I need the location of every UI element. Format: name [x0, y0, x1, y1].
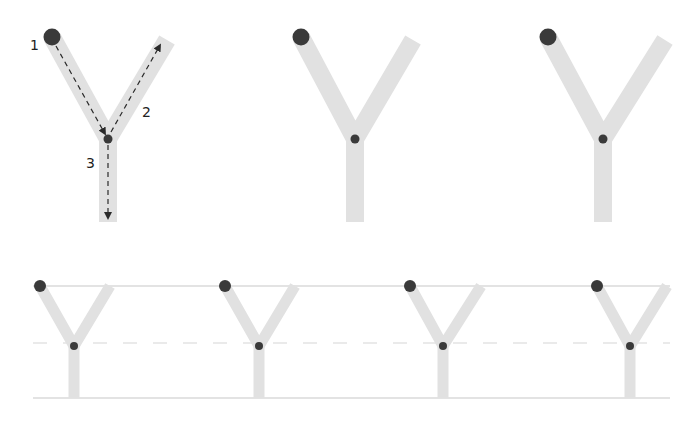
junction-dot-icon [351, 135, 360, 144]
start-dot-icon [404, 280, 416, 292]
start-dot-icon [34, 280, 46, 292]
start-dot-icon [591, 280, 603, 292]
demo-letter-y: 1 2 3 [30, 29, 167, 223]
letter-arms [597, 286, 667, 346]
junction-dot-icon [104, 135, 113, 144]
letter-arms [301, 37, 413, 139]
letter-y-tracing-diagram: 1 2 3 [0, 0, 700, 423]
junction-dot-icon [439, 342, 447, 350]
trace-letter-y-3 [540, 29, 666, 223]
step-label-2: 2 [142, 104, 151, 120]
practice-letter-y-4 [591, 280, 667, 398]
junction-dot-icon [255, 342, 263, 350]
practice-letter-y-3 [404, 280, 481, 398]
practice-letter-y-1 [34, 280, 110, 398]
junction-dot-icon [599, 135, 608, 144]
start-dot-icon [293, 29, 310, 46]
letter-arms [410, 286, 481, 346]
junction-dot-icon [626, 342, 634, 350]
stroke-2-right-arm [108, 40, 167, 139]
letter-arms [548, 37, 665, 139]
junction-dot-icon [70, 342, 78, 350]
practice-letter-y-2 [219, 280, 295, 398]
start-dot-icon [219, 280, 231, 292]
step-label-1: 1 [30, 37, 39, 53]
practice-guide-lines [33, 286, 670, 398]
letter-arms [225, 286, 295, 346]
start-dot-icon [540, 29, 557, 46]
trace-letter-y-2 [293, 29, 414, 223]
start-dot-icon [44, 29, 61, 46]
letter-arms [40, 286, 110, 346]
step-label-3: 3 [86, 155, 95, 171]
